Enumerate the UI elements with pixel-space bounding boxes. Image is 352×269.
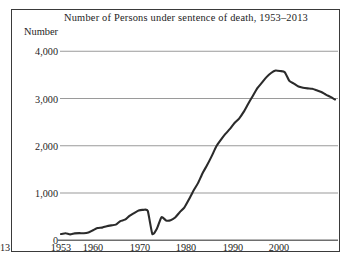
- x-tick-1970: 1970: [130, 242, 150, 253]
- x-tick-1990: 1990: [223, 242, 243, 253]
- y-axis-tick-labels: 4,000 3,000 2,000 1,000 0: [14, 0, 58, 269]
- y-tick-3000: 3,000: [35, 93, 58, 104]
- chart-figure: Number of Persons under sentence of deat…: [0, 0, 352, 269]
- x-tick-1960: 1960: [83, 242, 103, 253]
- x-tick-2013: 2013: [0, 242, 10, 253]
- x-tick-1953: 1953: [51, 242, 71, 253]
- x-tick-1980: 1980: [176, 242, 196, 253]
- y-tick-2000: 2,000: [35, 140, 58, 151]
- x-tick-2000: 2000: [269, 242, 289, 253]
- y-tick-1000: 1,000: [35, 188, 58, 199]
- data-line-persons-under-sentence-of-death: [61, 70, 335, 234]
- y-tick-4000: 4,000: [35, 46, 58, 57]
- gridlines: [60, 51, 338, 193]
